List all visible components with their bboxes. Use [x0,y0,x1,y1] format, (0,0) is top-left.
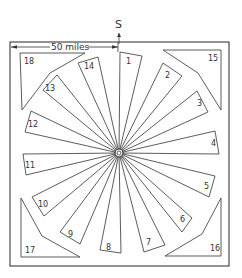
sector-outline [100,153,121,253]
sector-label: 12 [28,120,38,129]
corner-label: 15 [208,54,218,63]
sector-label: 5 [204,182,209,191]
sector-outline [119,63,182,153]
sector-label: 9 [68,230,73,239]
scale-arrow-right-icon [112,45,118,48]
sector-12: 12 [25,111,119,153]
sector-14: 14 [78,57,119,153]
sector-label: 1 [126,57,131,66]
corner-region-18: 18 [20,53,85,110]
sector-label: 7 [146,238,151,247]
corner-label: 16 [210,244,220,253]
sector-diagram: S 50 miles 1234567891011121314 18151716 [0,0,242,278]
sector-label: 13 [45,84,55,93]
scale-bar: 50 miles [11,42,118,52]
corner-label: 17 [25,246,35,255]
sector-outline [119,91,208,153]
sector-label: 14 [84,62,94,71]
corner-region-17: 17 [21,198,80,257]
north-label: S [115,18,122,31]
sector-label: 11 [25,161,35,170]
sector-outline [119,153,215,197]
corner-region-16: 16 [165,198,221,256]
sector-outline [25,111,119,153]
sector-13: 13 [43,75,119,153]
north-arrow-head-icon [117,33,121,37]
sector-label: 10 [38,200,48,209]
sector-6: 6 [119,153,192,232]
sector-2: 2 [119,63,182,153]
center-ring-inner-icon [117,151,121,155]
sector-label: 3 [197,99,202,108]
sector-outline [78,57,119,153]
sector-8: 8 [100,153,121,253]
sector-3: 3 [119,91,208,153]
corner-region-15: 15 [163,50,221,110]
corner-label: 18 [24,57,34,66]
sector-label: 8 [106,243,111,252]
sector-label: 2 [165,71,170,80]
scale-arrow-left-icon [11,45,17,48]
sector-label: 6 [180,215,185,224]
sector-label: 4 [211,139,216,148]
sector-5: 5 [119,153,215,197]
scale-label: 50 miles [51,42,90,52]
